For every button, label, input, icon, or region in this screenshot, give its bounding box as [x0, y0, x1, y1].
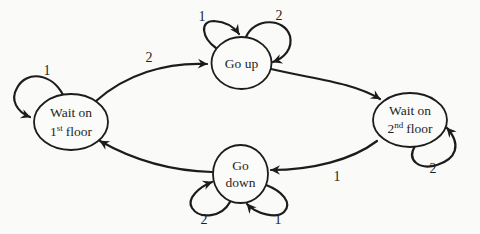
label-go-down-line1: Go [232, 158, 249, 173]
label-go-up: Go up [225, 56, 259, 71]
label-wait-first-floor-word: floor [66, 124, 93, 139]
edge-label-go-up-self-left: 1 [199, 9, 206, 24]
edge-label-wait-second-self: 2 [430, 161, 437, 176]
label-wait-second-floor-sup: nd [394, 120, 404, 130]
label-wait-first-floor-num: 1 [50, 124, 57, 139]
label-wait-second-line1: Wait on [389, 103, 431, 118]
edge-go-up-to-wait-second [271, 69, 380, 99]
edge-wait-second-to-go-down [271, 141, 377, 170]
edge-go-down-to-wait-first [100, 141, 212, 172]
label-wait-first-floor-sup: st [57, 123, 64, 133]
edge-wait-first-to-go-up [96, 64, 207, 101]
edge-label-wait-second-to-go-down: 1 [334, 169, 341, 184]
state-node-wait-second-floor [373, 93, 447, 147]
label-wait-second-floor-word: floor [406, 121, 433, 136]
edge-label-go-down-self-right: 1 [275, 212, 282, 227]
state-node-go-down [213, 145, 268, 203]
state-diagram: Wait on 1stfloor Go up Go down Wait on 2… [0, 0, 480, 234]
label-go-down-line2: down [226, 175, 256, 190]
label-wait-second-floor-num: 2 [388, 121, 395, 136]
edge-label-go-down-self-left: 2 [201, 212, 208, 227]
diagram-canvas: Wait on 1stfloor Go up Go down Wait on 2… [0, 0, 480, 234]
label-wait-first-line1: Wait on [50, 105, 92, 120]
edge-label-wait-first-to-go-up: 2 [146, 50, 153, 65]
edge-label-go-up-self-right: 2 [276, 8, 283, 23]
label-wait-first-line2: 1stfloor [50, 123, 93, 139]
state-node-wait-first-floor [34, 94, 108, 150]
edge-label-wait-first-self: 1 [44, 63, 51, 78]
